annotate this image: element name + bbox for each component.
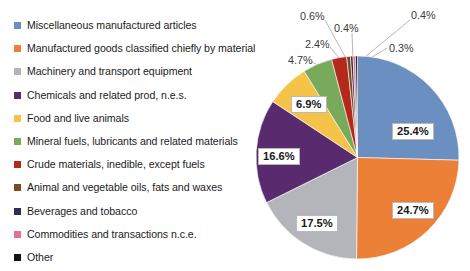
pie-callout-label: 0.4% bbox=[334, 22, 359, 34]
legend-item[interactable]: Manufactured goods classified chiefly by… bbox=[14, 37, 246, 60]
legend-color-swatch-icon bbox=[14, 115, 21, 122]
legend-item-label: Mineral fuels, lubricants and related ma… bbox=[27, 130, 238, 153]
pie-slice[interactable] bbox=[267, 158, 358, 260]
legend-item-label: Animal and vegetable oils, fats and waxe… bbox=[27, 176, 222, 199]
label-leader-line bbox=[330, 47, 344, 64]
legend-item-label: Food and live animals bbox=[27, 107, 129, 130]
legend-item-label: Other bbox=[27, 246, 53, 269]
legend-color-swatch-icon bbox=[14, 138, 21, 145]
pie-slice[interactable] bbox=[273, 71, 358, 157]
legend-color-swatch-icon bbox=[14, 184, 21, 191]
legend-color-swatch-icon bbox=[14, 22, 21, 29]
pie-callout-label: 2.4% bbox=[305, 38, 330, 50]
legend-item-label: Commodities and transactions n.c.e. bbox=[27, 223, 197, 246]
pie-slice[interactable] bbox=[353, 56, 357, 157]
legend-color-swatch-icon bbox=[14, 254, 21, 261]
legend-item[interactable]: Machinery and transport equipment bbox=[14, 60, 246, 83]
legend-color-swatch-icon bbox=[14, 208, 21, 215]
legend-item-label: Machinery and transport equipment bbox=[27, 60, 192, 83]
chart-legend: Miscellaneous manufactured articlesManuf… bbox=[14, 14, 246, 269]
legend-item[interactable]: Animal and vegetable oils, fats and waxe… bbox=[14, 176, 246, 199]
legend-item-label: Chemicals and related prod, n.e.s. bbox=[27, 84, 187, 107]
pie-value-label: 16.6% bbox=[258, 148, 300, 165]
legend-item[interactable]: Commodities and transactions n.c.e. bbox=[14, 223, 246, 246]
pie-value-label: 6.9% bbox=[291, 96, 327, 113]
legend-item[interactable]: Beverages and tobacco bbox=[14, 200, 246, 223]
pie-chart-figure: Miscellaneous manufactured articlesManuf… bbox=[0, 0, 470, 271]
label-leader-line bbox=[312, 62, 331, 72]
legend-color-swatch-icon bbox=[14, 92, 21, 99]
legend-item[interactable]: Mineral fuels, lubricants and related ma… bbox=[14, 130, 246, 153]
legend-item-label: Miscellaneous manufactured articles bbox=[27, 14, 197, 37]
pie-slice[interactable] bbox=[356, 56, 358, 158]
pie-value-label: 24.7% bbox=[392, 202, 434, 219]
legend-item-label: Crude materials, inedible, except fuels bbox=[27, 153, 205, 176]
pie-slice[interactable] bbox=[332, 57, 358, 158]
legend-color-swatch-icon bbox=[14, 68, 21, 75]
legend-item-label: Manufactured goods classified chiefly by… bbox=[27, 37, 255, 60]
label-leader-line bbox=[364, 48, 387, 62]
legend-item[interactable]: Miscellaneous manufactured articles bbox=[14, 14, 246, 37]
legend-item-label: Beverages and tobacco bbox=[27, 200, 137, 223]
pie-callout-label: 4.7% bbox=[288, 54, 313, 66]
legend-item[interactable]: Other bbox=[14, 246, 246, 269]
label-leader-line bbox=[360, 20, 410, 61]
pie-value-label: 17.5% bbox=[296, 215, 338, 232]
legend-color-swatch-icon bbox=[14, 161, 21, 168]
legend-item[interactable]: Crude materials, inedible, except fuels bbox=[14, 153, 246, 176]
pie-slice[interactable] bbox=[358, 56, 459, 160]
legend-item[interactable]: Chemicals and related prod, n.e.s. bbox=[14, 84, 246, 107]
pie-slice[interactable] bbox=[350, 56, 357, 157]
pie-callout-label: 0.6% bbox=[300, 10, 325, 22]
pie-callout-label: 0.4% bbox=[411, 9, 436, 21]
legend-color-swatch-icon bbox=[14, 231, 21, 238]
pie-value-label: 25.4% bbox=[392, 123, 434, 140]
label-leader-line bbox=[352, 33, 353, 60]
legend-color-swatch-icon bbox=[14, 45, 21, 52]
pie-callout-label: 0.3% bbox=[389, 42, 414, 54]
legend-item[interactable]: Food and live animals bbox=[14, 107, 246, 130]
pie-slice[interactable] bbox=[347, 56, 358, 157]
